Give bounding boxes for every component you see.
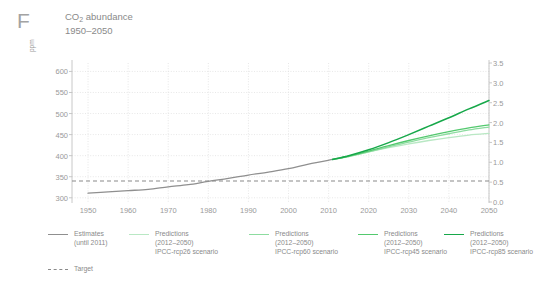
legend-label-line: Predictions <box>155 229 218 238</box>
legend-label-line: (2012–2050) <box>470 238 533 247</box>
legend-label: Predictions(2012–2050)IPCC-rcp85 scenari… <box>470 229 533 257</box>
legend-entry[interactable]: Predictions(2012–2050)IPCC-rcp45 scenari… <box>358 229 447 257</box>
legend-entry[interactable]: Predictions(2012–2050)IPCC-rcp26 scenari… <box>129 229 218 257</box>
legend-entry[interactable]: Predictions(2012–2050)IPCC-rcp60 scenari… <box>249 229 338 257</box>
legend-label-line: IPCC-rcp85 scenario <box>470 247 533 256</box>
legend-swatch-icon <box>249 231 269 238</box>
legend-label: Predictions(2012–2050)IPCC-rcp45 scenari… <box>384 229 447 257</box>
legend-label: Estimates(until 2011) <box>74 229 108 247</box>
legend-label-line: (2012–2050) <box>384 238 447 247</box>
legend-label-target: Target <box>74 264 93 273</box>
legend-swatch-icon <box>358 231 378 238</box>
legend-entry[interactable]: Predictions(2012–2050)IPCC-rcp85 scenari… <box>444 229 533 257</box>
legend-swatch-icon <box>48 231 68 238</box>
legend-swatch-icon <box>129 231 149 238</box>
legend-entry-target[interactable]: Target <box>48 264 93 273</box>
figure-panel-f: F CO2 abundance 1950–2050 ppm 3003504004… <box>0 0 549 290</box>
legend-swatch-dashed-icon <box>48 266 68 273</box>
legend-label-line: Target <box>74 264 93 273</box>
legend-label-line: (2012–2050) <box>155 238 218 247</box>
legend-label-line: IPCC-rcp60 scenario <box>275 247 338 256</box>
chart-legend: Estimates(until 2011)Predictions(2012–20… <box>0 0 549 290</box>
legend-label-line: (until 2011) <box>74 238 108 247</box>
legend-label-line: IPCC-rcp26 scenario <box>155 247 218 256</box>
legend-entry[interactable]: Estimates(until 2011) <box>48 229 108 247</box>
legend-label-line: Predictions <box>275 229 338 238</box>
legend-swatch-icon <box>444 231 464 238</box>
legend-label-line: (2012–2050) <box>275 238 338 247</box>
legend-label: Predictions(2012–2050)IPCC-rcp60 scenari… <box>275 229 338 257</box>
legend-label-line: IPCC-rcp45 scenario <box>384 247 447 256</box>
legend-label-line: Predictions <box>470 229 533 238</box>
legend-label-line: Estimates <box>74 229 108 238</box>
legend-label: Predictions(2012–2050)IPCC-rcp26 scenari… <box>155 229 218 257</box>
legend-label-line: Predictions <box>384 229 447 238</box>
